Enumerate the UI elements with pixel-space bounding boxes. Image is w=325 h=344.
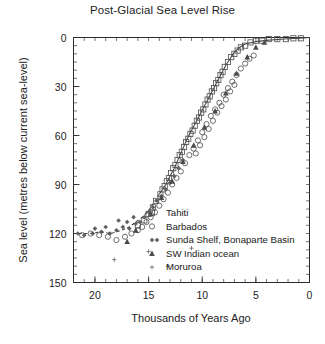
data-point (172, 174, 177, 179)
legend-item: Sunda Shelf, Bonaparte Basin (150, 234, 295, 245)
data-point (146, 249, 150, 253)
data-point (244, 54, 250, 59)
y-tick-label: 150 (49, 277, 67, 289)
data-point (200, 130, 205, 135)
data-point (193, 151, 198, 156)
data-point (195, 138, 200, 143)
legend-marker-small-diamond-pair (150, 238, 155, 243)
plot-frame (74, 38, 310, 283)
x-tick-label: 15 (143, 289, 155, 301)
data-point (129, 231, 134, 236)
data-point (157, 203, 162, 208)
legend-item: Barbados (149, 221, 207, 232)
legend-label: Sunda Shelf, Bonaparte Basin (166, 234, 295, 245)
legend-item: Moruroa (150, 261, 203, 272)
data-point (103, 225, 108, 230)
y-axis-title: Sea level (metres below current sea-leve… (17, 57, 29, 262)
data-point (243, 61, 248, 66)
data-point (208, 113, 213, 118)
data-point (180, 159, 186, 164)
data-point (144, 219, 149, 224)
data-point (112, 257, 116, 261)
y-tick-label: 30 (55, 81, 67, 93)
x-tick-label: 20 (89, 289, 101, 301)
data-point (125, 220, 130, 225)
x-axis-tick-labels: 20151050 (89, 289, 312, 301)
y-tick-label: 0 (61, 32, 67, 44)
data-point (253, 44, 259, 49)
legend-label: Barbados (166, 221, 207, 232)
legend-label: SW Indian ocean (166, 248, 239, 259)
fit-curve-dashed (79, 194, 159, 233)
data-point (131, 215, 136, 220)
data-point (122, 234, 127, 239)
data-point (187, 153, 192, 158)
legend-marker-open-circle (149, 224, 154, 229)
axes-layer: 20151050 0306090120150 (49, 32, 313, 301)
chart-legend: TahitiBarbadosSunda Shelf, Bonaparte Bas… (149, 207, 294, 272)
data-point (191, 142, 197, 147)
y-tick-label: 90 (55, 179, 67, 191)
y-axis-tick-labels: 0306090120150 (49, 32, 67, 289)
data-point (206, 126, 211, 131)
x-axis-minor-ticks (74, 38, 310, 283)
y-axis-minor-ticks (74, 38, 310, 283)
legend-marker-small-diamond-pair (155, 238, 160, 243)
x-tick-label: 10 (196, 289, 208, 301)
data-point (116, 218, 121, 223)
fit-curve-solid (159, 38, 307, 195)
data-point (238, 66, 243, 71)
data-point (197, 143, 202, 148)
legend-label: Tahiti (166, 207, 188, 218)
data-point (210, 118, 215, 123)
data-point (251, 53, 256, 58)
legend-label: Moruroa (166, 261, 202, 272)
data-point (223, 97, 228, 102)
data-point (176, 166, 181, 171)
x-tick-label: 0 (307, 289, 313, 301)
x-axis-title: Thousands of Years Ago (131, 312, 250, 324)
legend-item: SW Indian ocean (149, 248, 239, 259)
data-point (114, 237, 119, 242)
y-tick-label: 120 (49, 228, 67, 240)
legend-marker-small-cross (150, 265, 154, 269)
y-tick-label: 60 (55, 130, 67, 142)
chart-figure: Post-Glacial Sea Level Rise 20151050 030… (0, 0, 325, 344)
sea-level-plot: 20151050 0306090120150 TahitiBarbadosSun… (0, 0, 325, 344)
data-point (93, 226, 98, 231)
x-tick-label: 5 (253, 289, 259, 301)
data-point (202, 135, 207, 140)
